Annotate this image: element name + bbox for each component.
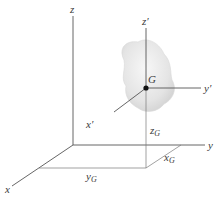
x-axis [12,145,73,186]
zG-label: zG [149,124,160,138]
x-axis-label: x [4,183,10,195]
rigid-body-axes-diagram: z y x z′ y′ x′ G zG yG xG [0,0,223,199]
G-label: G [148,73,156,85]
z-axis-label: z [69,3,75,15]
center-of-mass-point [143,85,148,90]
y-axis-label: y [207,139,213,151]
y-prime-label: y′ [203,82,212,94]
x-prime-label: x′ [85,118,94,130]
yG-label: yG [85,170,97,184]
z-prime-label: z′ [141,15,149,27]
